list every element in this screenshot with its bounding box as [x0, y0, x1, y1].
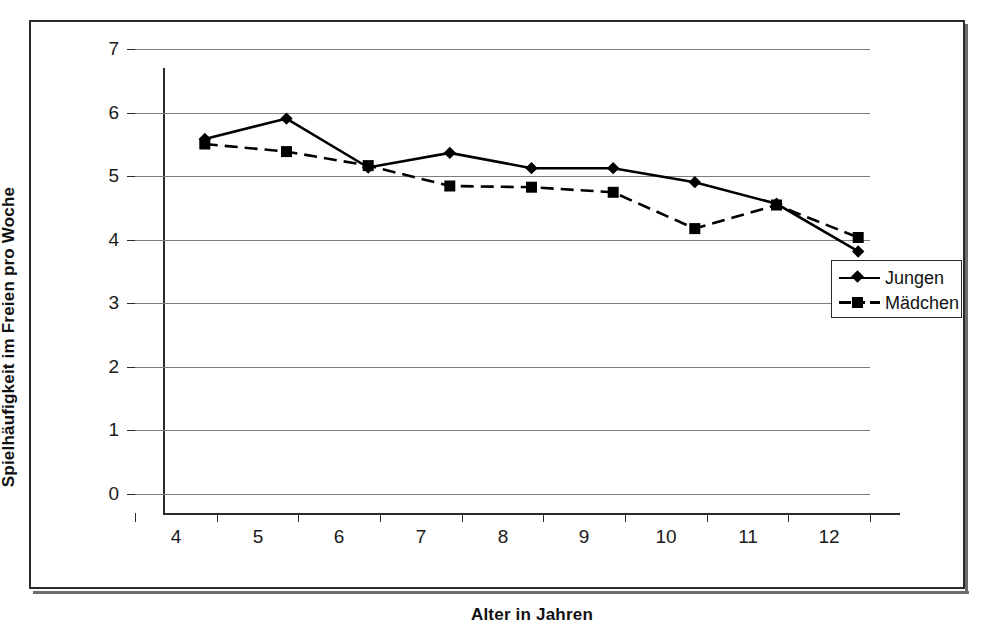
y-axis-tick: [127, 494, 135, 495]
x-axis-tick: [543, 513, 544, 522]
legend-label: Mädchen: [882, 293, 959, 313]
y-axis-tick-label: 4: [87, 230, 119, 249]
y-axis-tick-label: 0: [87, 484, 119, 503]
data-point-diamond: [689, 176, 701, 188]
y-axis-tick-label: 7: [87, 39, 119, 58]
x-axis-tick-label: 5: [233, 526, 283, 548]
data-point-diamond: [280, 112, 292, 124]
x-axis-tick-label: 6: [314, 526, 364, 548]
y-axis-tick: [127, 240, 135, 241]
frame-shadow-bottom: [33, 591, 969, 594]
data-point-square: [281, 146, 292, 157]
x-axis-tick-label: 8: [478, 526, 528, 548]
y-axis-tick-label: 1: [87, 420, 119, 439]
plot-area: Alter in Jahren Spielhäufigkeit im Freie…: [164, 69, 899, 514]
y-axis-title: Spielhäufigkeit im Freien pro Woche: [0, 107, 19, 567]
x-axis-tick: [625, 513, 626, 522]
legend-marker-square-icon: [837, 293, 882, 313]
x-axis-tick-label: 7: [396, 526, 446, 548]
y-axis-tick: [127, 113, 135, 114]
x-axis-tick-label: 9: [559, 526, 609, 548]
data-point-square: [771, 200, 782, 211]
y-axis-tick-label: 6: [87, 103, 119, 122]
x-axis-tick: [217, 513, 218, 522]
legend-item-maedchen: Mädchen: [837, 290, 956, 315]
y-axis-tick: [127, 303, 135, 304]
x-axis-tick: [298, 513, 299, 522]
data-point-square: [689, 223, 700, 234]
y-axis-tick: [127, 176, 135, 177]
data-point-square: [853, 232, 864, 243]
x-axis-tick: [135, 513, 136, 522]
legend-label: Jungen: [882, 268, 944, 288]
x-axis-tick-label: 11: [723, 526, 773, 548]
y-axis-tick-label: 5: [87, 166, 119, 185]
legend: Jungen Mädchen: [831, 260, 962, 318]
y-axis-tick-label: 3: [87, 293, 119, 312]
chart-frame: 01234567 456789101112 Alter in Jahren Sp…: [29, 20, 965, 589]
y-axis-tick: [127, 49, 135, 50]
x-axis-tick-label: 10: [641, 526, 691, 548]
data-point-square: [199, 139, 210, 150]
data-point-square: [608, 187, 619, 198]
x-axis-tick-label: 4: [151, 526, 201, 548]
y-axis-tick-label: 2: [87, 357, 119, 376]
data-point-diamond: [852, 245, 864, 257]
x-axis-tick: [462, 513, 463, 522]
series-lines: [164, 69, 899, 514]
data-point-square: [363, 160, 374, 171]
y-axis-tick: [127, 367, 135, 368]
data-point-diamond: [607, 162, 619, 174]
data-point-square: [526, 182, 537, 193]
x-axis-title: Alter in Jahren: [164, 605, 900, 624]
data-point-square: [444, 181, 455, 192]
data-point-diamond: [525, 162, 537, 174]
x-axis-tick: [788, 513, 789, 522]
x-axis-tick: [380, 513, 381, 522]
legend-item-jungen: Jungen: [837, 265, 956, 290]
x-axis-tick: [870, 513, 871, 522]
x-axis-tick: [707, 513, 708, 522]
data-point-diamond: [444, 147, 456, 159]
x-axis-tick-label: 12: [804, 526, 854, 548]
gridline: [135, 49, 870, 50]
y-axis-tick: [127, 430, 135, 431]
frame-shadow-right: [965, 24, 968, 594]
legend-marker-diamond-icon: [837, 268, 882, 288]
